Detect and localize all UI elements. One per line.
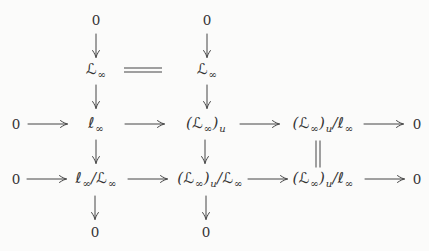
down-arrow	[91, 139, 101, 165]
node-bottom-zero-right: 0	[202, 224, 211, 240]
node-L-inf-u-mod-l-inf: (ℒ∞)u/ℓ∞	[293, 114, 354, 134]
down-arrow	[90, 195, 100, 221]
node-L-inf-u: (ℒ∞)u	[186, 114, 226, 134]
node-row4-zero-right: 0	[413, 171, 422, 187]
down-arrow	[91, 33, 101, 59]
node-L-inf-u-mod-l-inf-2: (ℒ∞)u/ℓ∞	[293, 169, 354, 189]
right-arrow	[27, 119, 69, 129]
down-arrow	[200, 139, 210, 165]
node-row3-zero-left: 0	[12, 116, 21, 132]
node-top-zero-right: 0	[203, 12, 212, 28]
commutative-diagram: 0 0 ℒ∞ ℒ∞ 0 ℓ∞ (ℒ∞)u (ℒ∞)u/ℓ∞ 0 0 ℓ∞/ℒ∞ …	[0, 0, 429, 251]
right-arrow	[127, 174, 169, 184]
down-arrow	[91, 84, 101, 110]
down-arrow	[202, 33, 212, 59]
node-l-inf: ℓ∞	[88, 114, 104, 134]
right-arrow	[26, 174, 68, 184]
node-l-inf-mod-L-inf: ℓ∞/ℒ∞	[75, 169, 116, 189]
right-arrow	[363, 119, 405, 129]
node-L-inf-u-mod-L-inf: (ℒ∞)u/ℒ∞	[177, 169, 242, 189]
right-arrow	[364, 174, 406, 184]
down-arrow	[202, 84, 212, 110]
right-arrow	[247, 174, 289, 184]
node-L-inf-right: ℒ∞	[197, 60, 217, 80]
node-top-zero-left: 0	[92, 12, 101, 28]
vertical-double-equals	[316, 141, 321, 168]
node-row4-zero-left: 0	[12, 171, 21, 187]
right-arrow	[239, 119, 281, 129]
right-arrow	[124, 119, 166, 129]
double-equals	[124, 68, 162, 73]
node-bottom-zero-left: 0	[91, 224, 100, 240]
node-row3-zero-right: 0	[413, 116, 422, 132]
down-arrow	[201, 195, 211, 221]
node-L-inf-left: ℒ∞	[86, 60, 106, 80]
